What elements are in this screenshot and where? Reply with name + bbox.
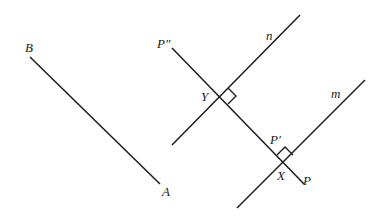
line-n [172,15,300,145]
label-n: n [266,28,273,43]
label-b: B [25,40,33,55]
reflection-diagram: B A P″ n Y m P′ X P [0,0,382,218]
line-m [237,80,365,208]
perpendicular-line-p [172,48,304,184]
label-x: X [276,168,286,183]
label-y: Y [201,89,210,104]
label-p-prime: P′ [269,132,281,147]
segment-ab [30,57,160,184]
label-p-double-prime: P″ [156,36,171,51]
label-a: A [161,184,170,199]
label-p: P [302,173,311,188]
right-angle-marker-y [228,88,236,104]
label-m: m [331,86,340,101]
